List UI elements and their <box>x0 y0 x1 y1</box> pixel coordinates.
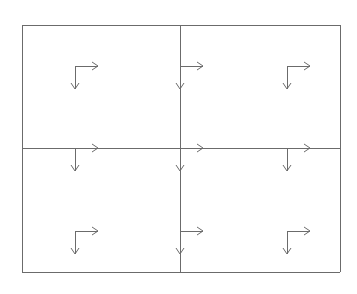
axis-top-left-icon <box>71 62 98 89</box>
axis-mid-right-icon <box>283 144 310 171</box>
axis-top-right-icon <box>283 62 310 89</box>
axis-glyphs <box>71 62 310 254</box>
axis-bottom-right-icon <box>283 227 310 254</box>
diagram-canvas <box>0 0 357 294</box>
axis-center-top-icon <box>176 62 203 89</box>
axis-bottom-left-icon <box>71 227 98 254</box>
axis-mid-left-icon <box>71 144 98 171</box>
axis-center-bottom-icon <box>176 227 203 254</box>
grid-diagram <box>0 0 357 294</box>
axis-center-mid-icon <box>176 144 203 171</box>
